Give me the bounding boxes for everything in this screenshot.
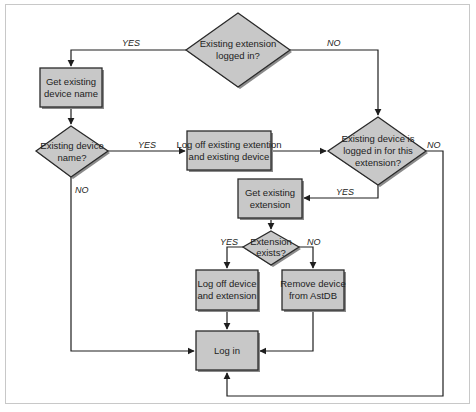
label-no-device-logged-in: NO — [427, 140, 441, 150]
label-yes-top: YES — [122, 38, 140, 48]
node-text-line: and extension — [197, 290, 256, 301]
label-yes-device-logged-in: YES — [336, 187, 354, 197]
node-log-in: Log in — [196, 331, 260, 372]
node-existing-device-logged-in: Existing device is logged in for this ex… — [328, 117, 428, 187]
node-get-existing-extension: Get existing extension — [238, 179, 304, 220]
label-yes-device-name: YES — [138, 140, 156, 150]
node-text-line: Existing device is — [342, 133, 415, 144]
node-remove-device-astdb: Remove device from AstDB — [280, 270, 346, 312]
node-extension-exists: Extension exists? — [243, 231, 301, 267]
node-text-line: device name — [44, 88, 98, 99]
edge-ext-logged-in-no — [290, 50, 378, 115]
node-text-line: Existing extension — [200, 38, 277, 49]
node-text-line: Get existing — [46, 76, 96, 87]
edge-ext-exists-yes — [227, 247, 243, 268]
edge-remove-device-to-login — [260, 311, 313, 351]
node-text-line: Remove device — [280, 278, 345, 289]
node-text-line: and existing device — [189, 151, 270, 162]
node-text-line: logged in for this — [343, 145, 413, 156]
node-log-off-existing-extension-device: Log off existing extention and existing … — [177, 131, 282, 172]
node-text-line: Extension — [250, 236, 292, 247]
edge-ext-exists-no — [299, 247, 313, 268]
node-existing-extension-logged-in: Existing extension logged in? — [186, 13, 292, 89]
node-get-existing-device-name: Get existing device name — [40, 68, 104, 109]
node-text-line: Log off device — [198, 278, 257, 289]
node-text-line: name? — [57, 152, 86, 163]
node-text-line: Existing device — [40, 140, 103, 151]
edge-device-name-no — [71, 177, 194, 351]
label-no-top: NO — [327, 38, 341, 48]
flowchart: YES NO YES NO NO YES YES NO Existing ext… — [0, 0, 476, 412]
node-text-line: Log in — [214, 345, 240, 356]
label-yes-ext-exists: YES — [220, 237, 238, 247]
node-text-line: Get existing — [245, 187, 295, 198]
node-log-off-device-extension: Log off device and extension — [196, 270, 260, 312]
label-no-ext-exists: NO — [307, 237, 321, 247]
node-text-line: logged in? — [216, 50, 260, 61]
node-existing-device-name: Existing device name? — [36, 126, 110, 179]
node-text-line: extension — [250, 199, 291, 210]
label-no-device-name: NO — [75, 185, 89, 195]
node-text-line: extension? — [355, 157, 401, 168]
edge-ext-logged-in-yes — [71, 50, 186, 66]
node-text-line: Log off existing extention — [177, 139, 282, 150]
node-text-line: from AstDB — [289, 290, 337, 301]
node-text-line: exists? — [256, 247, 286, 258]
